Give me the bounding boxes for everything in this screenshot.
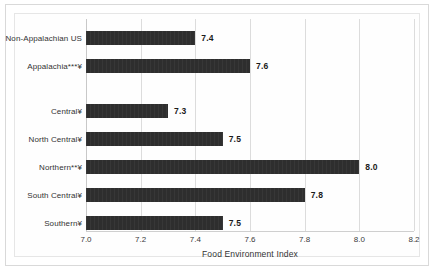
bar	[86, 160, 359, 174]
x-tick-label: 7.2	[135, 235, 146, 244]
gridline	[414, 19, 415, 231]
category-labels: Non-Appalachian USAppalachia***¥Central¥…	[6, 19, 82, 231]
bar-row: 7.5	[86, 216, 414, 230]
bar-row: 7.5	[86, 132, 414, 146]
bar-value-label: 7.6	[256, 61, 268, 71]
bar-row: 7.8	[86, 188, 414, 202]
bar	[86, 188, 305, 202]
x-axis-line	[86, 231, 414, 232]
bar-row: 7.4	[86, 31, 414, 45]
category-label: South Central¥	[27, 191, 82, 200]
bar	[86, 104, 168, 118]
bar-row: 7.6	[86, 59, 414, 73]
category-label: North Central¥	[29, 135, 82, 144]
category-label: Southern¥	[44, 219, 82, 228]
bar	[86, 216, 223, 230]
category-label: Non-Appalachian US	[5, 34, 82, 43]
x-axis-title: Food Environment Index	[86, 249, 414, 259]
bar-row: 8.0	[86, 160, 414, 174]
category-label: Central¥	[51, 107, 82, 116]
x-tick-labels: 7.07.27.47.67.88.08.2	[86, 235, 414, 249]
bar-value-label: 7.5	[229, 134, 241, 144]
plot-area: 7.47.67.37.58.07.87.5	[86, 19, 414, 231]
x-tick-label: 7.6	[244, 235, 255, 244]
bar-row: 7.3	[86, 104, 414, 118]
x-tick-label: 7.4	[190, 235, 201, 244]
x-tick-label: 7.8	[299, 235, 310, 244]
bar-value-label: 7.3	[174, 106, 186, 116]
category-label: Northern**¥	[39, 163, 82, 172]
x-tick-label: 7.0	[80, 235, 91, 244]
bar-value-label: 7.4	[201, 33, 213, 43]
bar	[86, 59, 250, 73]
bar	[86, 31, 195, 45]
x-tick-label: 8.2	[408, 235, 419, 244]
x-tick-label: 8.0	[354, 235, 365, 244]
bar-value-label: 7.5	[229, 218, 241, 228]
chart-frame: 7.47.67.37.58.07.87.5 Non-Appalachian US…	[5, 4, 429, 266]
bar-value-label: 8.0	[365, 162, 377, 172]
category-label: Appalachia***¥	[27, 62, 82, 71]
bar-value-label: 7.8	[311, 190, 323, 200]
bar	[86, 132, 223, 146]
